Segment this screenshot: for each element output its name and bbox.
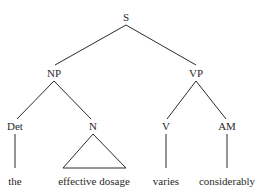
triangle-n-phrase — [63, 134, 126, 168]
edge-s-vp — [126, 25, 196, 65]
edge-s-np — [55, 25, 126, 65]
node-v: V — [162, 120, 170, 132]
node-np: NP — [47, 67, 61, 79]
leaf-considerably: considerably — [199, 175, 256, 187]
edge-vp-am — [196, 81, 226, 119]
node-vp: VP — [189, 67, 203, 79]
node-det: Det — [7, 120, 23, 132]
leaf-the: the — [8, 175, 22, 187]
leaf-effective-dosage: effective dosage — [58, 175, 130, 187]
edge-vp-v — [167, 81, 196, 119]
syntax-tree: S NP VP Det N V AM the effective dosage … — [0, 0, 263, 193]
edge-np-det — [17, 81, 54, 119]
leaf-varies: varies — [153, 175, 179, 187]
node-s: S — [123, 11, 129, 23]
edge-np-n — [54, 81, 91, 119]
node-am: AM — [218, 120, 236, 132]
node-n: N — [89, 120, 97, 132]
